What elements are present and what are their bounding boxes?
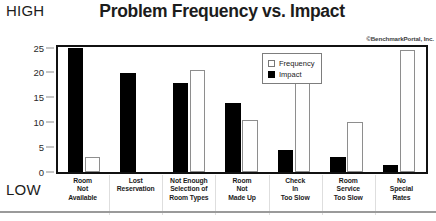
legend-label-impact: Impact [279, 70, 302, 79]
x-axis-category-label: CheckInToo Slow [269, 177, 322, 202]
bar-group [110, 47, 162, 172]
y-tick-label: 10 [33, 116, 44, 127]
bar-impact [383, 165, 399, 172]
x-axis-category-label: LostReservation [109, 177, 162, 194]
legend-item-frequency: Frequency [268, 58, 314, 68]
bar-frequency [190, 70, 206, 172]
y-tick-label: 5 [39, 141, 44, 152]
bar-group [320, 47, 372, 172]
bar-frequency [347, 122, 363, 172]
bar-impact [68, 48, 84, 172]
x-axis-category-label: RoomNotMade Up [215, 177, 268, 202]
bar-group [163, 47, 215, 172]
x-label-separator [215, 175, 216, 215]
y-tick-label: 0 [39, 166, 44, 177]
bar-impact [330, 157, 346, 172]
bar-frequency [242, 120, 258, 172]
impact-swatch-icon [268, 71, 275, 78]
bar-frequency [400, 50, 416, 172]
y-tick-mark [46, 72, 54, 73]
x-label-separator [375, 175, 376, 215]
y-tick-mark [46, 171, 54, 172]
chart-figure: Problem Frequency vs. Impact HIGH LOW 05… [0, 0, 436, 221]
bar-impact [278, 150, 294, 172]
x-label-separator [269, 175, 270, 215]
y-tick-mark [46, 121, 54, 122]
frequency-swatch-icon [268, 60, 275, 67]
bar-impact [120, 73, 136, 172]
plot-area: Frequency Impact [56, 45, 428, 174]
copyright-annotation: ©BenchmarkPortal, Inc. [366, 35, 434, 42]
x-label-separator [322, 175, 323, 215]
bar-frequency [85, 157, 101, 172]
x-axis-category-label: NoSpecialRates [375, 177, 428, 202]
y-tick-label: 20 [33, 67, 44, 78]
y-axis: 0510152025 [0, 0, 58, 221]
x-axis-category-label: RoomNotAvailable [56, 177, 109, 202]
bar-group [215, 47, 267, 172]
bar-impact [173, 83, 189, 172]
chart-legend: Frequency Impact [262, 53, 322, 84]
x-label-separator [109, 175, 110, 215]
bar-frequency [295, 83, 311, 172]
y-tick-mark [46, 97, 54, 98]
y-tick-mark [46, 47, 54, 48]
bar-group [373, 47, 425, 172]
bar-impact [225, 103, 241, 172]
bottom-divider [0, 211, 436, 213]
chart-title: Problem Frequency vs. Impact [72, 1, 372, 22]
legend-item-impact: Impact [268, 69, 314, 79]
x-axis-category-label: RoomServiceToo Slow [322, 177, 375, 202]
y-tick-label: 25 [33, 42, 44, 53]
y-tick-mark [46, 146, 54, 147]
x-axis-category-label: Not EnoughSelection ofRoom Types [162, 177, 215, 202]
bars-container [58, 47, 426, 172]
legend-label-frequency: Frequency [279, 59, 314, 68]
y-tick-label: 15 [33, 92, 44, 103]
x-label-separator [162, 175, 163, 215]
bar-group [58, 47, 110, 172]
